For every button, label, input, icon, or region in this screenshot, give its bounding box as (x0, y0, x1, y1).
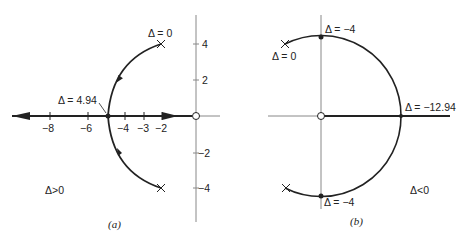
y-tick-label-a-0: 4 (202, 38, 208, 50)
caption-a: (a) (108, 218, 121, 231)
y-tick-label-a-1: 2 (202, 74, 208, 86)
locus-lower-branch-a (108, 116, 161, 188)
x-tick-label-a-0: −8 (42, 122, 54, 134)
annotation-breakin-a: Δ = 4.94 (58, 94, 97, 106)
leader-line-a (99, 103, 106, 113)
real-crossing (399, 114, 403, 118)
region-label-a: Δ>0 (45, 184, 64, 196)
annotation-real-b: Δ = −12.94 (405, 101, 456, 113)
y-tick-label-a-2: −2 (198, 147, 210, 159)
panel-a: −8 −6 −4 −3 −2 4 2 −2 −4 (12, 15, 220, 231)
pole-x-icon (282, 184, 290, 192)
x-tick-label-a-1: −6 (80, 122, 92, 134)
zero-circle-icon (318, 113, 325, 120)
annotation-pole-b: Δ = 0 (272, 50, 296, 62)
annotation-pole-a: Δ = 0 (148, 27, 172, 39)
annotation-imag-bottom-b: Δ = −4 (324, 196, 355, 208)
region-label-b: Δ<0 (410, 184, 429, 196)
x-tick-label-a-4: −2 (155, 122, 167, 134)
zero-circle-icon (193, 113, 200, 120)
pole-x-icon (157, 40, 165, 48)
breakin-point (106, 114, 111, 119)
locus-upper-branch-a (108, 44, 161, 116)
imag-crossing-top (319, 35, 324, 40)
x-tick-label-a-2: −4 (117, 122, 129, 134)
annotation-imag-top-b: Δ = −4 (325, 23, 356, 35)
x-tick-label-a-3: −3 (137, 122, 149, 134)
caption-b: (b) (350, 215, 363, 228)
pole-x-icon (281, 40, 289, 48)
panel-b: Δ = −4 Δ = 0 Δ = −12.94 Δ = −4 Δ<0 (b) (268, 15, 456, 228)
pole-x-icon (157, 184, 165, 192)
arrow-right-icon (162, 112, 178, 120)
y-tick-label-a-3: −4 (198, 182, 210, 194)
root-locus-figure: −8 −6 −4 −3 −2 4 2 −2 −4 (0, 0, 469, 240)
imag-crossing-bottom (319, 194, 324, 199)
arrow-left-icon (12, 112, 30, 120)
